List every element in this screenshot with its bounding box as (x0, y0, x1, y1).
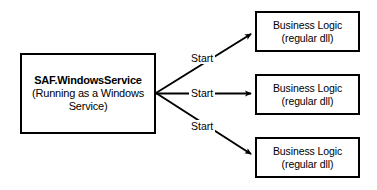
business-logic-subtitle-3: (regular dll) (282, 158, 334, 171)
service-node-subtitle-line-1: (Running as a Windows (32, 87, 144, 100)
edge-label-start-top: Start (189, 52, 215, 64)
edge-label-start-middle: Start (189, 87, 215, 99)
business-logic-subtitle-2: (regular dll) (282, 95, 334, 108)
edge-label-start-bottom: Start (189, 120, 215, 132)
node-business-logic-3[interactable]: Business Logic (regular dll) (255, 137, 360, 178)
node-saf-windows-service[interactable]: SAF.WindowsService (Running as a Windows… (20, 53, 156, 134)
node-business-logic-1[interactable]: Business Logic (regular dll) (255, 11, 360, 52)
node-business-logic-2[interactable]: Business Logic (regular dll) (255, 74, 360, 115)
diagram-canvas: SAF.WindowsService (Running as a Windows… (0, 0, 377, 190)
business-logic-title-3: Business Logic (273, 145, 342, 158)
service-node-title: SAF.WindowsService (34, 74, 142, 87)
business-logic-title-1: Business Logic (273, 19, 342, 32)
service-node-subtitle-line-2: Service) (69, 100, 108, 113)
business-logic-title-2: Business Logic (273, 82, 342, 95)
business-logic-subtitle-1: (regular dll) (282, 32, 334, 45)
